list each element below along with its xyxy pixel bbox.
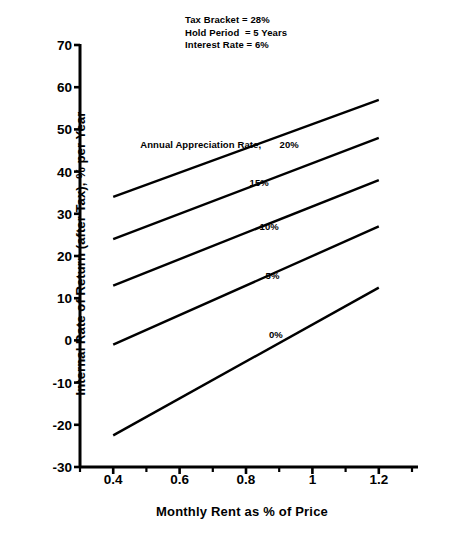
x-tick-label: 1 [282, 472, 342, 487]
series-inline-label: 20% [279, 139, 298, 150]
y-tick-label: 60 [28, 80, 72, 95]
series-inline-label: 0% [269, 329, 283, 340]
y-tick-label: 30 [28, 206, 72, 221]
y-tick-label: 10 [28, 291, 72, 306]
y-tick-label: 40 [28, 164, 72, 179]
series-inline-label: 10% [260, 221, 279, 232]
series-inline-label: 5% [266, 269, 280, 280]
y-tick-label: 70 [28, 38, 72, 53]
y-tick-label: -30 [28, 460, 72, 475]
y-tick-label: 20 [28, 249, 72, 264]
series-inline-label: 15% [250, 177, 269, 188]
y-tick-label: 0 [28, 333, 72, 348]
y-tick-label: 50 [28, 122, 72, 137]
labels-layer: -30-20-100102030405060700.40.60.811.220%… [0, 0, 458, 542]
x-tick-label: 0.4 [83, 472, 143, 487]
x-tick-label: 0.6 [150, 472, 210, 487]
y-tick-label: -10 [28, 375, 72, 390]
series-group-label: Annual Appreciation Rate, [140, 139, 261, 150]
x-tick-label: 1.2 [349, 472, 409, 487]
chart-figure: Tax Bracket = 28% Hold Period = 5 Years … [0, 0, 458, 542]
x-tick-label: 0.8 [216, 472, 276, 487]
y-tick-label: -20 [28, 417, 72, 432]
